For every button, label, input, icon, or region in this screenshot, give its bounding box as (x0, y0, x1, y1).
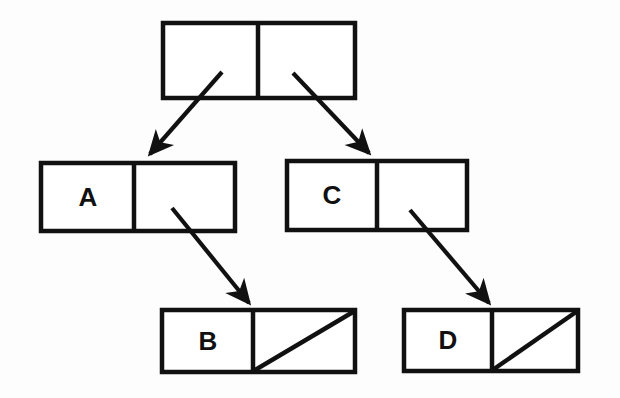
node-b-label: B (199, 326, 218, 356)
node-link-diagram: A C B D (0, 0, 620, 398)
node-a-label: A (79, 182, 98, 212)
node-c: C (287, 161, 467, 230)
node-a-box (41, 163, 235, 231)
node-a: A (41, 163, 235, 231)
node-b: B (162, 310, 355, 372)
node-d-label: D (439, 325, 458, 355)
node-b-box (162, 310, 355, 372)
node-d: D (404, 310, 578, 371)
node-root (163, 23, 355, 98)
diagram-canvas: A C B D (0, 0, 620, 398)
node-c-label: C (323, 180, 342, 210)
